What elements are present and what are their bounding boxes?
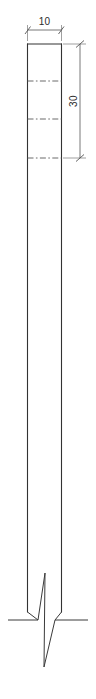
height-dimension-label: 30 [68, 95, 79, 107]
width-dimension: 10 [25, 16, 64, 41]
technical-drawing-root: 10 30 [0, 0, 96, 699]
width-dimension-label: 10 [39, 16, 51, 27]
section-center-lines [28, 81, 62, 158]
drawing-canvas: 10 30 [0, 0, 96, 699]
height-dimension: 30 [63, 41, 86, 162]
column-outline [28, 44, 62, 612]
